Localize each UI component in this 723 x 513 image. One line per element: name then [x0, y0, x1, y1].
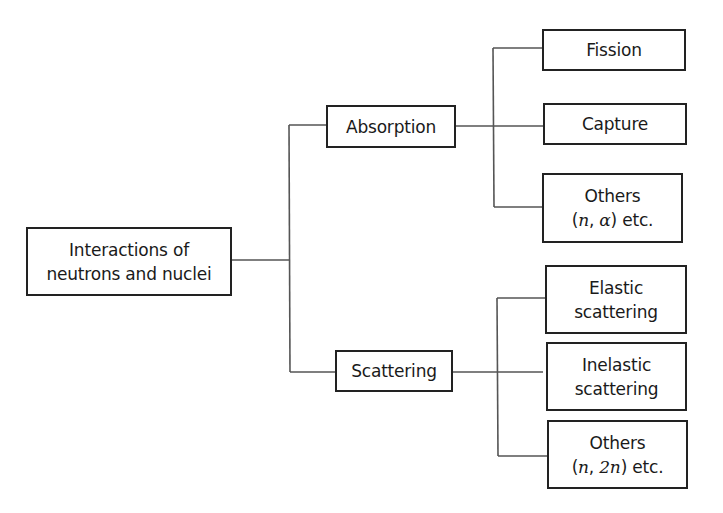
absorption-others-formula: (n, α) etc. [572, 208, 654, 232]
elastic-node-box: Elastic scattering [545, 265, 687, 334]
absorption-others-node-box: Others (n, α) etc. [542, 173, 683, 243]
inelastic-line-1: Inelastic [582, 353, 651, 377]
formula-symbol-alpha: α [599, 210, 610, 230]
capture-node-box: Capture [543, 103, 687, 145]
root-node-line-2: neutrons and nuclei [46, 262, 211, 286]
fission-node-box: Fission [542, 29, 686, 71]
scattering-others-formula: (n, 2n) etc. [572, 455, 664, 479]
formula-sep: , [589, 210, 599, 230]
capture-label: Capture [582, 112, 648, 136]
elastic-line-2: scattering [574, 300, 658, 324]
formula-symbol-n: n [578, 457, 589, 477]
formula-close: ) etc. [611, 210, 654, 230]
absorption-node-box: Absorption [326, 105, 456, 148]
formula-close: ) etc. [621, 457, 664, 477]
inelastic-node-box: Inelastic scattering [546, 342, 687, 411]
inelastic-line-2: scattering [575, 377, 659, 401]
scattering-label: Scattering [351, 359, 437, 383]
scattering-others-line-1: Others [590, 431, 646, 455]
absorption-others-line-1: Others [585, 184, 641, 208]
formula-symbol-n: n [578, 210, 589, 230]
connector-absorption-vertical [493, 48, 494, 207]
scattering-others-node-box: Others (n, 2n) etc. [547, 420, 688, 489]
connector-scattering-vertical [497, 298, 498, 456]
root-node-line-1: Interactions of [69, 238, 189, 262]
scattering-node-box: Scattering [335, 350, 453, 392]
elastic-line-1: Elastic [589, 276, 643, 300]
fission-label: Fission [586, 38, 641, 62]
formula-sep: , [589, 457, 599, 477]
root-node-box: Interactions of neutrons and nuclei [26, 227, 232, 296]
connector-trunk [289, 125, 290, 372]
absorption-label: Absorption [346, 115, 436, 139]
formula-symbol-2n: 2n [599, 457, 620, 477]
